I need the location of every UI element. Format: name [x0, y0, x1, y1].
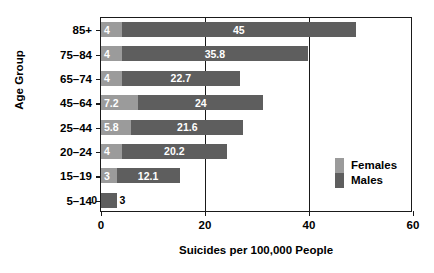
x-tick-60 [413, 211, 414, 216]
bar-segment-males: 20.2 [122, 144, 227, 159]
x-tick-20 [205, 211, 206, 216]
bar-value-females: 4 [101, 73, 122, 84]
bar-value-males: 21.6 [131, 122, 243, 133]
y-axis-label-6: 15–19 [60, 170, 92, 182]
bar-value-males: 35.8 [122, 49, 308, 60]
y-axis-label-2: 65–74 [60, 73, 92, 85]
stacked-bar: 445 [101, 22, 413, 37]
chart-legend: Females Males [335, 158, 397, 188]
bar-row: 65–74422.7 [101, 67, 413, 91]
stacked-bar: 03 [101, 193, 413, 208]
bar-segment-males: 24 [138, 95, 263, 110]
bar-segment-females: 4 [101, 22, 122, 37]
bar-row: 45–647.224 [101, 91, 413, 115]
bar-segment-females: 3 [101, 168, 117, 183]
bar-value-females: 5.8 [101, 122, 131, 133]
legend-item-females: Females [335, 158, 397, 173]
y-axis-title: Age Group [13, 20, 25, 140]
y-axis-label-0: 85+ [72, 24, 92, 36]
x-axis-title: Suicides per 100,000 People [100, 244, 412, 256]
y-axis-label-4: 25–44 [60, 122, 92, 134]
stacked-bar: 420.2 [101, 144, 413, 159]
stacked-bar: 422.7 [101, 71, 413, 86]
legend-swatch-females-icon [335, 158, 344, 173]
bar-segment-females: 4 [101, 71, 122, 86]
bar-segment-males: 21.6 [131, 120, 243, 135]
legend-item-males: Males [335, 173, 397, 188]
x-tick-label-0: 0 [98, 219, 104, 231]
bar-segment-females: 5.8 [101, 120, 131, 135]
suicide-rate-bar-chart: Age Group 85+44575–84435.865–74422.745–6… [0, 0, 434, 273]
bar-value-males: 12.1 [117, 171, 180, 182]
y-axis-label-7: 5–14 [66, 195, 92, 207]
stacked-bar: 5.821.6 [101, 120, 413, 135]
x-tick-label-40: 40 [303, 219, 316, 231]
x-tick-label-20: 20 [199, 219, 212, 231]
stacked-bar: 435.8 [101, 46, 413, 61]
bar-value-females: 4 [101, 146, 122, 157]
bar-value-females: 4 [101, 49, 122, 60]
x-tick-40 [309, 211, 310, 216]
x-tick-label-60: 60 [407, 219, 420, 231]
legend-swatch-males-icon [335, 173, 344, 188]
bar-segment-females: 7.2 [101, 95, 138, 110]
y-axis-label-1: 75–84 [60, 49, 92, 61]
legend-label-females: Females [351, 160, 397, 172]
legend-label-males: Males [351, 175, 383, 187]
bar-segment-males: 12.1 [117, 168, 180, 183]
bar-segment-females: 4 [101, 46, 122, 61]
bar-value-females: 0 [91, 194, 97, 206]
bar-value-males: 24 [138, 97, 263, 108]
bar-segment-males: 3 [101, 193, 117, 208]
y-axis-label-3: 45–64 [60, 97, 92, 109]
bar-value-females: 3 [101, 171, 117, 182]
bar-row: 5–1403 [101, 189, 413, 213]
bar-value-males: 3 [120, 194, 126, 206]
bar-value-females: 7.2 [101, 97, 138, 108]
bar-value-males: 45 [122, 24, 356, 35]
bar-row: 75–84435.8 [101, 42, 413, 66]
bar-segment-males: 45 [122, 22, 356, 37]
x-tick-0 [101, 211, 102, 216]
y-axis-label-5: 20–24 [60, 146, 92, 158]
bar-segment-females: 4 [101, 144, 122, 159]
bar-value-males: 20.2 [122, 146, 227, 157]
bar-value-males: 22.7 [122, 73, 240, 84]
bar-segment-males: 22.7 [122, 71, 240, 86]
stacked-bar: 7.224 [101, 95, 413, 110]
bar-row: 25–445.821.6 [101, 116, 413, 140]
plot-area: 85+44575–84435.865–74422.745–647.22425–4… [100, 17, 412, 212]
bar-segment-males: 35.8 [122, 46, 308, 61]
bar-row: 85+445 [101, 18, 413, 42]
bar-value-females: 4 [101, 24, 122, 35]
